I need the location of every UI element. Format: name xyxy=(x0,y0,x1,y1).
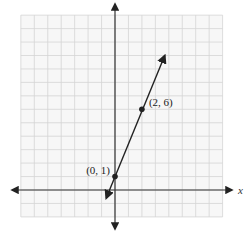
point-label: (0, 1) xyxy=(86,164,110,177)
point-label: (2, 6) xyxy=(149,96,173,109)
x-axis-label: x xyxy=(237,184,243,196)
point-marker xyxy=(139,107,145,113)
coordinate-plane: (0, 1)(2, 6) x y xyxy=(0,0,249,236)
grid-background xyxy=(21,15,223,217)
point-marker xyxy=(112,174,118,180)
